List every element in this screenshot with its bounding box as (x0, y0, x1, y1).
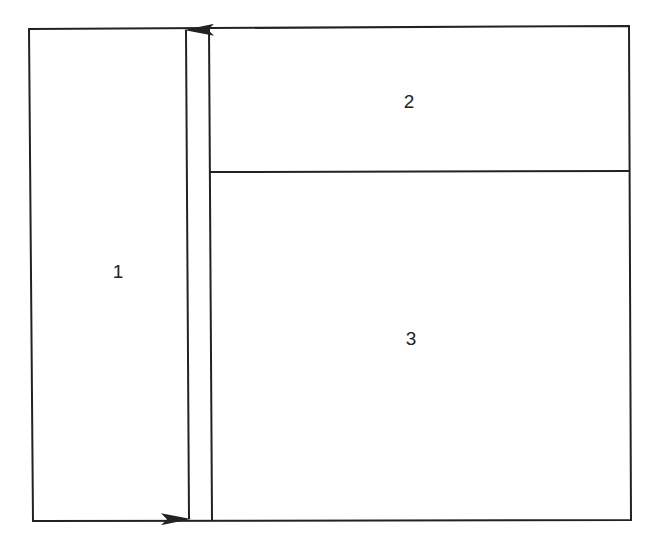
vertical-divider (209, 28, 212, 520)
region-3-label: 3 (406, 329, 417, 348)
region-2-label: 2 (404, 92, 415, 111)
layout-diagram (0, 0, 657, 543)
height-arrow (186, 30, 189, 519)
region-1-label: 1 (113, 262, 124, 281)
horizontal-divider (210, 171, 630, 172)
